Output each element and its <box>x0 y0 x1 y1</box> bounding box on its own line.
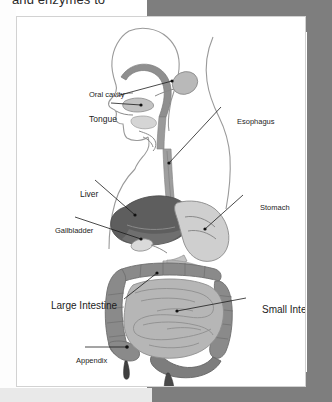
leader-esophagus <box>169 107 221 163</box>
label-tongue: Tongue <box>89 114 117 124</box>
label-esophagus: Esophagus <box>237 117 275 126</box>
label-small-intestine: Small Intesine <box>262 304 306 315</box>
pharynx-shape <box>157 117 166 149</box>
leader-liver <box>95 180 135 215</box>
label-stomach: Stomach <box>260 203 290 212</box>
screenshot-root: and enzymes to .ol { fill:none; stroke:#… <box>0 0 332 402</box>
cropped-header-text: and enzymes to <box>12 0 152 11</box>
left-margin-band <box>0 0 16 402</box>
larynx-shape <box>131 116 156 129</box>
label-gallbladder: Gallbladder <box>55 226 93 235</box>
digestive-system-illustration: .ol { fill:none; stroke:#9a9a9a; stroke-… <box>17 17 305 386</box>
label-oral-cavity: Oral cavity <box>89 90 124 99</box>
right-gray-band <box>307 0 332 402</box>
label-large-intestine: Large Intestine <box>51 300 117 311</box>
bottom-light-band <box>0 388 152 402</box>
figure-frame: .ol { fill:none; stroke:#9a9a9a; stroke-… <box>16 16 306 387</box>
label-liver: Liver <box>80 189 98 199</box>
label-appendix: Appendix <box>76 356 107 365</box>
small-intestine-shape <box>124 279 224 358</box>
oral-cavity-structures <box>116 64 201 151</box>
appendix-shape <box>124 361 130 379</box>
